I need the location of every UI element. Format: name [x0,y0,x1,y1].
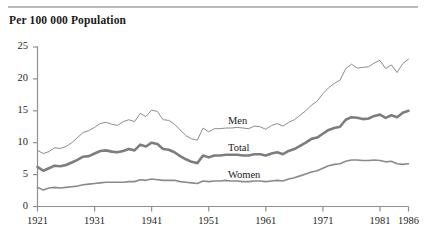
series-label-women: Women [227,169,261,180]
x-axis-tick-1961: 1961 [255,215,276,226]
x-axis-tick-1941: 1941 [141,215,162,226]
x-axis-tick-1921: 1921 [27,215,48,226]
series-label-total: Total [227,142,250,153]
x-axis-tick-1951: 1951 [198,215,219,226]
y-axis-tick-15: 15 [6,104,28,115]
x-axis-tick-1981: 1981 [369,215,390,226]
x-axis-tick-1986: 1986 [398,215,419,226]
line-chart-plot [0,0,426,235]
x-axis-tick-1931: 1931 [84,215,105,226]
chart-page: Per 100 000 Population 0510152025 192119… [0,0,426,235]
y-axis-tick-25: 25 [6,40,28,51]
x-axis-tick-1971: 1971 [312,215,333,226]
series-label-men: Men [227,115,248,126]
y-axis-tick-5: 5 [6,168,28,179]
y-axis-tick-0: 0 [6,200,28,211]
y-axis-tick-10: 10 [6,136,28,147]
y-axis-tick-20: 20 [6,72,28,83]
